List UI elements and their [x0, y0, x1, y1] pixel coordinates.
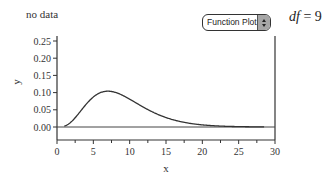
axes: 0.000.050.100.150.200.25051015202530 [34, 36, 281, 158]
y-tick-label: 0.25 [34, 36, 52, 47]
x-tick-label: 25 [234, 146, 244, 157]
chart-area: 0.000.050.100.150.200.25051015202530 x y [0, 0, 334, 182]
curve-layer [64, 91, 264, 127]
series-line [64, 91, 264, 127]
y-tick-label: 0.05 [34, 104, 52, 115]
x-tick-label: 10 [125, 146, 135, 157]
y-tick-label: 0.15 [34, 70, 52, 81]
y-tick-label: 0.00 [34, 122, 52, 133]
y-tick-label: 0.10 [34, 87, 52, 98]
x-axis-label: x [163, 162, 169, 174]
x-tick-label: 30 [270, 146, 280, 157]
x-tick-label: 15 [161, 146, 171, 157]
y-tick-label: 0.20 [34, 53, 52, 64]
y-axis-label: y [10, 79, 22, 85]
x-tick-label: 20 [197, 146, 207, 157]
x-tick-label: 5 [91, 146, 96, 157]
x-tick-label: 0 [55, 146, 60, 157]
